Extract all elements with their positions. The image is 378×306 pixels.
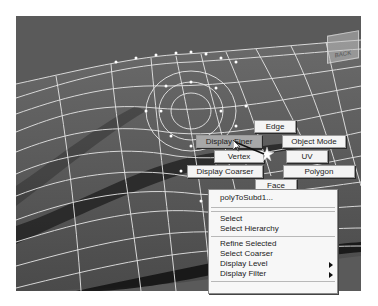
menu-separator <box>211 236 335 237</box>
marking-menu-edge[interactable]: Edge <box>254 120 296 133</box>
menu-item-polytosubd[interactable]: polyToSubd1... <box>209 193 337 203</box>
menu-item-select-hierarchy[interactable]: Select Hierarchy <box>209 224 337 234</box>
marking-menu-object-mode[interactable]: Object Mode <box>282 135 346 148</box>
submenu-arrow-icon <box>329 272 333 278</box>
mouse-cursor-icon <box>233 140 241 152</box>
menu-separator <box>211 207 335 208</box>
menu-separator <box>211 211 335 212</box>
marking-menu-uv[interactable]: UV <box>286 150 328 163</box>
menu-item-display-filter[interactable]: Display Filter <box>209 269 337 279</box>
marking-menu-polygon[interactable]: Polygon <box>283 165 355 178</box>
menu-item-display-level[interactable]: Display Level <box>209 259 337 269</box>
menu-item-refine-selected[interactable]: Refine Selected <box>209 239 337 249</box>
viewcube-label: BACK <box>335 50 351 59</box>
context-menu: polyToSubd1... Select Select Hierarchy R… <box>208 189 338 294</box>
menu-separator <box>211 281 335 282</box>
menu-item-select[interactable]: Select <box>209 214 337 224</box>
menu-item-select-coarser[interactable]: Select Coarser <box>209 249 337 259</box>
viewcube-widget[interactable]: BACK <box>327 30 359 64</box>
submenu-arrow-icon <box>329 262 333 268</box>
marking-menu-display-coarser[interactable]: Display Coarser <box>187 165 263 178</box>
